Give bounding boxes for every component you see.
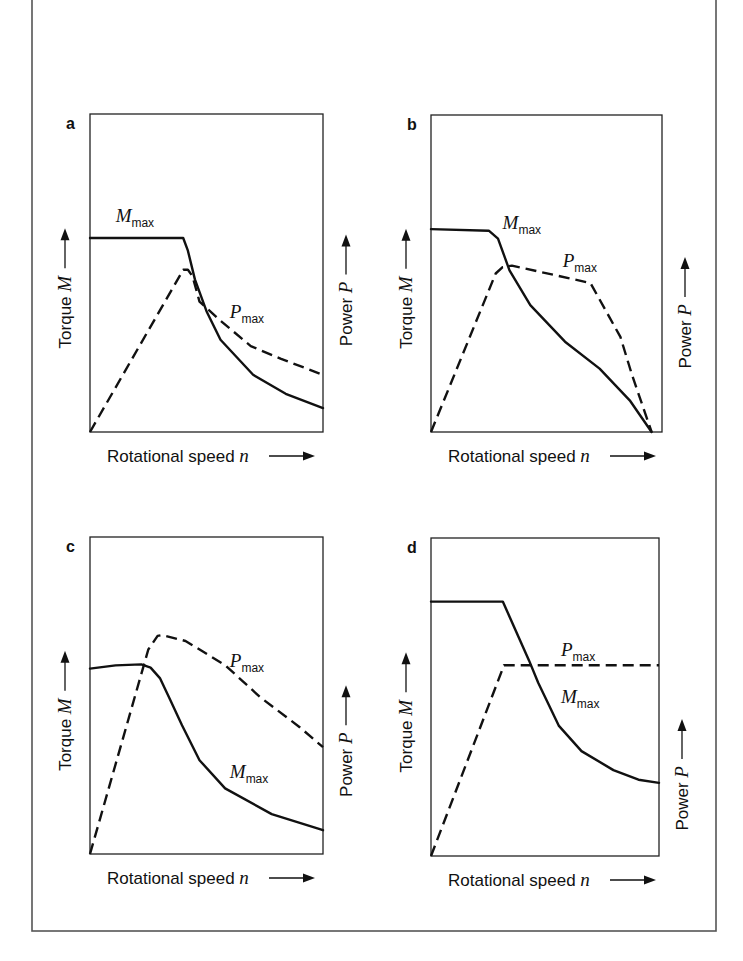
arrow-icon	[402, 652, 411, 664]
plot-area	[90, 537, 323, 854]
arrow-icon	[402, 229, 411, 241]
arrow-icon	[681, 257, 690, 269]
y-left-axis-label: Torque M	[54, 228, 75, 348]
arrow-icon	[61, 228, 70, 240]
svg-text:Rotational speed n: Rotational speed n	[107, 445, 249, 466]
torque-curve-label: Mmax	[229, 761, 268, 786]
y-right-axis-label: Power P	[335, 235, 356, 347]
x-axis-label: Rotational speed n	[448, 869, 656, 890]
panel-letter: b	[407, 116, 417, 133]
svg-text:Torque M: Torque M	[395, 699, 416, 773]
panel-b: bMmaxPmaxRotational speed nTorque MPower…	[395, 115, 695, 466]
torque-curve-label: Mmax	[502, 212, 542, 237]
y-right-axis-label: Power P	[674, 257, 695, 369]
arrow-icon	[61, 651, 70, 663]
panel-d: dPmaxMmaxRotational speed nTorque MPower…	[395, 538, 692, 890]
panel-letter: d	[407, 539, 417, 556]
power-curve-label: Pmax	[560, 639, 595, 664]
power-curve	[90, 635, 323, 854]
plot-area	[90, 114, 323, 432]
torque-curve	[431, 602, 659, 783]
panel-letter: a	[66, 115, 75, 132]
x-axis-label: Rotational speed n	[448, 445, 656, 466]
arrow-right-icon	[303, 452, 315, 461]
svg-text:Power P: Power P	[335, 281, 356, 346]
power-curve	[90, 270, 323, 432]
arrow-icon	[678, 719, 687, 731]
y-left-axis-label: Torque M	[395, 229, 416, 349]
arrow-right-icon	[303, 874, 315, 883]
panels-group: aMmaxPmaxRotational speed nTorque MPower…	[54, 114, 695, 890]
power-curve	[431, 665, 659, 856]
panel-letter: c	[66, 538, 75, 555]
x-axis-label: Rotational speed n	[107, 445, 315, 466]
arrow-right-icon	[644, 452, 656, 461]
y-right-axis-label: Power P	[335, 685, 356, 797]
svg-text:Torque M: Torque M	[54, 275, 75, 349]
panel-c: cMmaxPmaxRotational speed nTorque MPower…	[54, 537, 356, 888]
y-left-axis-label: Torque M	[395, 652, 416, 772]
svg-text:Power P: Power P	[335, 732, 356, 797]
x-axis-label: Rotational speed n	[107, 867, 315, 888]
torque-curve	[90, 238, 323, 408]
svg-text:Power P: Power P	[674, 304, 695, 369]
power-curve-label: Pmax	[562, 250, 597, 275]
power-curve	[431, 266, 652, 432]
torque-curve	[431, 229, 652, 432]
torque-curve-label: Mmax	[560, 686, 600, 711]
svg-text:Power P: Power P	[671, 766, 692, 831]
panel-a: aMmaxPmaxRotational speed nTorque MPower…	[54, 114, 356, 466]
arrow-right-icon	[644, 876, 656, 885]
y-left-axis-label: Torque M	[54, 651, 75, 771]
y-right-axis-label: Power P	[671, 719, 692, 831]
torque-curve-label: Mmax	[115, 205, 155, 230]
torque-power-figure: aMmaxPmaxRotational speed nTorque MPower…	[0, 0, 743, 961]
svg-text:Torque M: Torque M	[54, 697, 75, 771]
svg-text:Rotational speed n: Rotational speed n	[448, 869, 590, 890]
torque-curve	[90, 664, 323, 830]
power-curve-label: Pmax	[229, 650, 264, 675]
svg-text:Torque M: Torque M	[395, 275, 416, 349]
svg-text:Rotational speed n: Rotational speed n	[448, 445, 590, 466]
arrow-icon	[342, 235, 351, 247]
arrow-icon	[342, 685, 351, 697]
svg-text:Rotational speed n: Rotational speed n	[107, 867, 249, 888]
power-curve-label: Pmax	[229, 301, 264, 326]
